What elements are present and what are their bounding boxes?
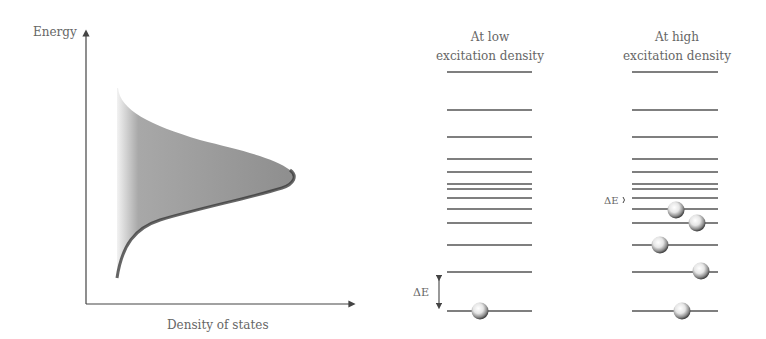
small-delta-bracket [623,197,625,203]
electron-particle [472,303,489,320]
electron-particle [674,303,691,320]
electron-particle [693,263,710,280]
high-particles [652,202,710,320]
low-title-line1: At low [470,30,510,44]
electron-particle [668,202,685,219]
low-title-line2: excitation density [436,49,544,63]
dos-plot: Energy Density of states [33,25,352,332]
low-particles [472,303,489,320]
electron-particle [689,215,706,232]
dos-shape [117,88,294,278]
low-delta-label: ΔE [413,286,429,299]
diagram-canvas: Energy Density of states At low excitati… [0,0,766,339]
low-energy-levels [447,72,532,311]
high-title-line1: At high [654,30,699,44]
y-axis-label: Energy [33,25,77,39]
x-axis-label: Density of states [167,318,269,332]
low-excitation-panel: At low excitation density ΔE [413,30,544,320]
high-delta-label: ΔE [604,195,619,206]
high-title-line2: excitation density [623,49,731,63]
high-excitation-panel: At high excitation density ΔE [604,30,731,320]
electron-particle [652,237,669,254]
